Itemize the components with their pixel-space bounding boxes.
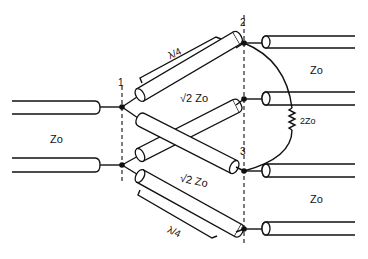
output-impedance-top-label: Zo: [310, 64, 323, 76]
branch-impedance-top-label: √2 Zo: [180, 92, 208, 104]
branch-impedance-bottom-label: √2 Zo: [179, 172, 209, 190]
port1-label: 1: [118, 77, 124, 88]
resistor-value-label: 2Zo: [300, 116, 316, 126]
input-impedance-label: Zo: [50, 133, 63, 145]
output-coax-port3: [244, 164, 355, 235]
output-coax-port2: [244, 36, 355, 105]
quarter-wave-top-label: λ/4: [166, 45, 183, 61]
isolation-resistor: [244, 43, 295, 171]
input-coax: [12, 101, 122, 172]
port3-label: 3: [240, 146, 246, 157]
output-impedance-bottom-label: Zo: [310, 193, 323, 205]
quarter-wave-bottom-label: λ/4: [166, 224, 183, 240]
power-divider-diagram: 1 2 3 Zo Zo Zo λ/4 λ/4 √2 Zo √2 Zo 2Zo: [0, 0, 368, 259]
port2-label: 2: [240, 17, 246, 28]
